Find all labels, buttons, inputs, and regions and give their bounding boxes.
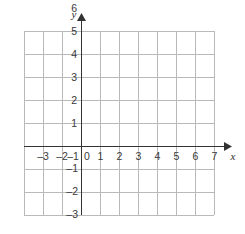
y-axis-label: y bbox=[71, 8, 77, 20]
coordinate-plane-figure: –3 –2 –1 0 1 2 3 4 5 6 7 1 2 3 4 5 6 –1 … bbox=[0, 0, 245, 234]
x-tick-label-6: 6 bbox=[193, 150, 199, 162]
figure-background bbox=[0, 0, 245, 234]
x-axis-label: x bbox=[230, 150, 236, 162]
x-tick-label-5: 5 bbox=[174, 150, 180, 162]
y-tick-label--3: –3 bbox=[66, 208, 78, 220]
x-axis-tick-labels-negative: –3 –2 –1 bbox=[37, 150, 79, 162]
x-tick-label--3: –3 bbox=[37, 150, 49, 162]
x-tick-label-1: 1 bbox=[98, 150, 104, 162]
x-tick-label-3: 3 bbox=[136, 150, 142, 162]
y-tick-label--2: –2 bbox=[66, 185, 78, 197]
x-tick-label-2: 2 bbox=[117, 150, 123, 162]
y-tick-label-2: 2 bbox=[71, 94, 77, 106]
y-tick-label-3: 3 bbox=[71, 71, 77, 83]
origin-label: 0 bbox=[84, 150, 90, 162]
y-tick-label-4: 4 bbox=[71, 48, 77, 60]
y-axis-tick-labels-negative: –1 –2 –3 bbox=[66, 162, 78, 220]
y-tick-label-1: 1 bbox=[71, 117, 77, 129]
x-tick-label-7: 7 bbox=[212, 150, 218, 162]
x-tick-label-4: 4 bbox=[155, 150, 161, 162]
y-tick-label--1: –1 bbox=[66, 162, 78, 174]
y-tick-label-5: 5 bbox=[71, 25, 77, 37]
x-tick-label--1: –1 bbox=[67, 150, 79, 162]
coordinate-plane-svg: –3 –2 –1 0 1 2 3 4 5 6 7 1 2 3 4 5 6 –1 … bbox=[0, 0, 245, 234]
